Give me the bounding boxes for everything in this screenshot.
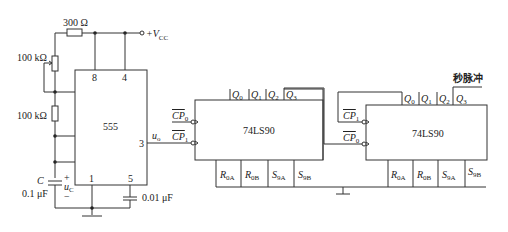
c2-r0a: R0A bbox=[390, 169, 406, 182]
pin4-label: 4 bbox=[122, 72, 127, 83]
cap-value: 0.1 μF bbox=[22, 188, 48, 199]
inv-bubble bbox=[362, 120, 366, 124]
resistor-300 bbox=[67, 29, 82, 36]
counter2-name: 74LS90 bbox=[412, 128, 444, 139]
pin5-label: 5 bbox=[128, 173, 133, 184]
pot-label: 100 kΩ bbox=[17, 52, 47, 63]
c1-cp0-label: CP0 bbox=[172, 110, 189, 123]
ground-symbol bbox=[336, 187, 350, 194]
pin3-label: 3 bbox=[139, 138, 144, 149]
inv-bubble bbox=[362, 142, 366, 146]
counter1-name: 74LS90 bbox=[243, 125, 275, 136]
c1-s9a: S9A bbox=[272, 169, 286, 182]
c2-cp0-label: CP0 bbox=[343, 132, 360, 145]
pin8-label: 8 bbox=[92, 72, 97, 83]
uo-label: uo bbox=[152, 130, 161, 143]
c2-s9a: S9A bbox=[442, 169, 456, 182]
control-capacitor bbox=[123, 185, 137, 208]
cap-name: C bbox=[37, 175, 44, 186]
potentiometer bbox=[52, 56, 58, 71]
c2-r0b: R0B bbox=[416, 169, 432, 182]
c1-r0b: R0B bbox=[244, 169, 260, 182]
wire bbox=[95, 33, 125, 70]
vcc-terminal bbox=[140, 31, 144, 35]
circuit-diagram: 300 Ω +VCC 100 kΩ 7 100 kΩ 6 2 C 0.1 μF … bbox=[0, 0, 508, 232]
c1-r0a: R0A bbox=[219, 169, 235, 182]
c2-q0: Q0 bbox=[404, 93, 415, 106]
second-pulse-label: 秒脉冲 bbox=[453, 72, 483, 84]
inv-bubble bbox=[191, 120, 195, 124]
resistor-100k bbox=[52, 106, 58, 121]
inv-bubble bbox=[191, 141, 195, 145]
pin1-label: 1 bbox=[89, 173, 94, 184]
c2-cp1-label: CP1 bbox=[343, 110, 360, 123]
junction-dot bbox=[90, 206, 94, 210]
wire-wiper bbox=[44, 63, 75, 92]
c1-s9b: S9B bbox=[298, 169, 312, 182]
c2-q3: Q3 bbox=[456, 93, 467, 106]
wire bbox=[55, 136, 75, 162]
timing-capacitor bbox=[48, 181, 62, 185]
r-bottom-label: 100 kΩ bbox=[17, 110, 47, 121]
c2-q2: Q2 bbox=[439, 93, 450, 106]
c2-q1: Q1 bbox=[421, 93, 432, 106]
c1-cp1-label: CP1 bbox=[172, 131, 189, 144]
vcc-label: +VCC bbox=[146, 28, 169, 42]
r-top-label: 300 Ω bbox=[63, 17, 88, 28]
timer-name: 555 bbox=[103, 121, 118, 132]
cap-control-value: 0.01 μF bbox=[142, 192, 173, 203]
c2-s9b: S9B bbox=[468, 166, 482, 179]
